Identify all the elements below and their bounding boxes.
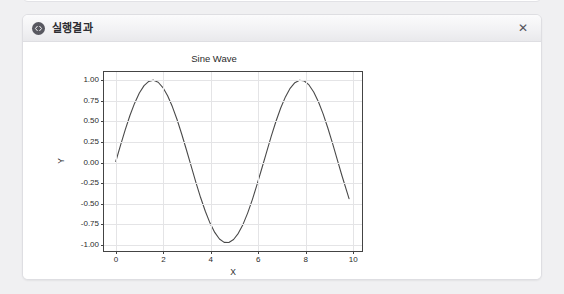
y-tick-label: 0.50 [83, 117, 99, 125]
x-gridline [258, 72, 259, 251]
y-gridline [104, 224, 362, 225]
x-tick-mark [306, 251, 307, 254]
x-axis-label: X [103, 268, 363, 277]
y-gridline [104, 245, 362, 246]
y-gridline [104, 142, 362, 143]
x-tick-label: 6 [256, 256, 260, 264]
x-tick-mark [116, 251, 117, 254]
x-gridline [211, 72, 212, 251]
y-gridline [104, 204, 362, 205]
x-tick-mark [353, 251, 354, 254]
execution-result-panel: 실행결과 ✕ Sine Wave 1.000.750.500.250.00-0.… [22, 14, 542, 280]
y-tick-label: 1.00 [83, 76, 99, 84]
x-tick-label: 8 [304, 256, 308, 264]
y-tick-label: -1.00 [81, 241, 99, 249]
y-tick-label: -0.75 [81, 220, 99, 228]
y-tick-mark [101, 163, 104, 164]
y-tick-mark [101, 142, 104, 143]
panel-title: 실행결과 [52, 23, 93, 34]
y-tick-label: 0.75 [83, 97, 99, 105]
x-tick-label: 4 [209, 256, 213, 264]
y-gridline [104, 183, 362, 184]
y-gridline [104, 80, 362, 81]
x-tick-mark [211, 251, 212, 254]
sine-wave-figure: Sine Wave 1.000.750.500.250.00-0.25-0.50… [31, 42, 361, 280]
x-tick-label: 10 [349, 256, 358, 264]
y-tick-mark [101, 183, 104, 184]
y-tick-mark [101, 121, 104, 122]
code-icon [32, 22, 45, 35]
y-tick-mark [101, 204, 104, 205]
chart-plot-area: 1.000.750.500.250.00-0.25-0.50-0.75-1.00… [103, 71, 363, 252]
y-gridline [104, 101, 362, 102]
y-tick-mark [101, 101, 104, 102]
x-tick-mark [258, 251, 259, 254]
x-tick-mark [163, 251, 164, 254]
y-tick-mark [101, 245, 104, 246]
y-tick-mark [101, 80, 104, 81]
x-gridline [306, 72, 307, 251]
panel-body: Sine Wave 1.000.750.500.250.00-0.25-0.50… [23, 42, 541, 280]
x-gridline [163, 72, 164, 251]
panel-header: 실행결과 ✕ [23, 15, 541, 42]
y-gridline [104, 163, 362, 164]
y-tick-label: 0.00 [83, 159, 99, 167]
x-tick-label: 0 [114, 256, 118, 264]
close-icon[interactable]: ✕ [515, 20, 531, 36]
y-axis-label: Y [57, 158, 66, 164]
y-tick-label: 0.25 [83, 138, 99, 146]
x-gridline [116, 72, 117, 251]
y-tick-label: -0.25 [81, 179, 99, 187]
y-tick-label: -0.50 [81, 200, 99, 208]
x-gridline [353, 72, 354, 251]
chart-title: Sine Wave [83, 54, 345, 64]
background-card-above [22, 0, 542, 2]
x-tick-label: 2 [161, 256, 165, 264]
y-gridline [104, 121, 362, 122]
y-tick-mark [101, 224, 104, 225]
